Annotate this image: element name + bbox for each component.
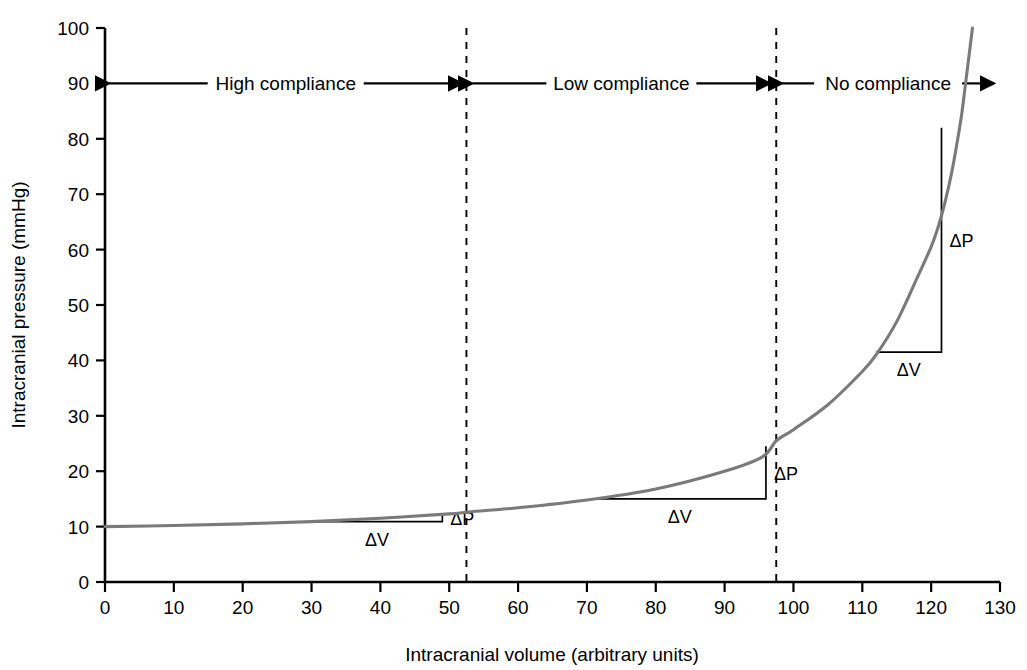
y-tick-label: 50 xyxy=(68,295,89,316)
delta-v-label: ΔV xyxy=(365,530,389,550)
x-tick-label: 60 xyxy=(508,597,529,618)
chart-background xyxy=(0,0,1027,670)
delta-p-label: ΔP xyxy=(949,231,973,251)
x-tick-label: 110 xyxy=(847,597,877,618)
y-tick-label: 20 xyxy=(68,461,89,482)
x-tick-label: 130 xyxy=(984,597,1016,618)
y-axis-title: Intracranial pressure (mmHg) xyxy=(8,181,29,428)
delta-p-label: ΔP xyxy=(774,464,798,484)
y-tick-label: 90 xyxy=(68,73,89,94)
x-tick-label: 50 xyxy=(439,597,460,618)
x-tick-label: 40 xyxy=(370,597,391,618)
x-tick-label: 100 xyxy=(778,597,810,618)
x-tick-label: 0 xyxy=(100,597,111,618)
x-tick-label: 80 xyxy=(645,597,666,618)
y-tick-label: 30 xyxy=(68,406,89,427)
y-tick-label: 80 xyxy=(68,129,89,150)
x-tick-label: 30 xyxy=(301,597,322,618)
x-tick-label: 10 xyxy=(163,597,184,618)
x-tick-label: 120 xyxy=(915,597,947,618)
y-tick-label: 10 xyxy=(68,517,89,538)
delta-v-label: ΔV xyxy=(897,360,921,380)
x-axis-title: Intracranial volume (arbitrary units) xyxy=(405,644,699,665)
pressure-volume-figure: 0102030405060708090100 01020304050607080… xyxy=(0,0,1027,670)
region-label-no-compliance: No compliance xyxy=(825,73,951,94)
region-label-high-compliance: High compliance xyxy=(215,73,355,94)
y-tick-label: 0 xyxy=(78,572,89,593)
region-label-low-compliance: Low compliance xyxy=(553,73,689,94)
y-tick-label: 70 xyxy=(68,184,89,205)
y-tick-label: 40 xyxy=(68,350,89,371)
x-tick-label: 20 xyxy=(232,597,253,618)
x-tick-label: 70 xyxy=(576,597,597,618)
x-tick-label: 90 xyxy=(714,597,735,618)
delta-v-label: ΔV xyxy=(668,507,692,527)
y-tick-label: 100 xyxy=(57,18,89,39)
y-tick-label: 60 xyxy=(68,240,89,261)
intracranial-compliance-chart: 0102030405060708090100 01020304050607080… xyxy=(0,0,1027,670)
